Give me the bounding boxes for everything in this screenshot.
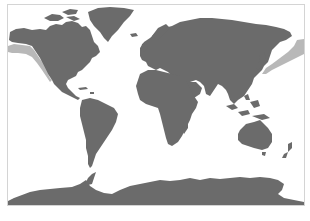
world-map [0, 0, 310, 221]
world-map-svg [0, 0, 310, 221]
